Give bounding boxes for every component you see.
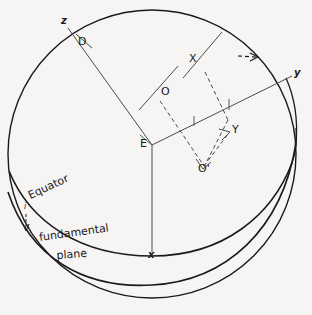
y-axis-line [152, 76, 292, 145]
point-O-prime-label: O' [198, 163, 210, 174]
direction-arrow-shaft [238, 56, 256, 57]
O-to-Oprime-dashed [160, 101, 204, 166]
point-D-label: D [78, 36, 86, 47]
inclination-label: i [24, 203, 26, 211]
plane-label: plane [56, 248, 87, 261]
figure-canvas: z D y x E O X Y O' i Equator fundamental… [0, 0, 312, 315]
z-axis-label: z [61, 16, 67, 26]
point-O-label: O [161, 86, 170, 97]
point-X-label: X [189, 53, 197, 64]
point-O-line [139, 66, 178, 110]
point-E-label: E [140, 138, 147, 149]
y-axis-label: y [294, 68, 301, 78]
x-axis-label: x [148, 250, 154, 260]
diagram-svg [0, 0, 312, 315]
Y-drop-dashed [206, 120, 228, 163]
point-Y-label: Y [232, 124, 239, 135]
